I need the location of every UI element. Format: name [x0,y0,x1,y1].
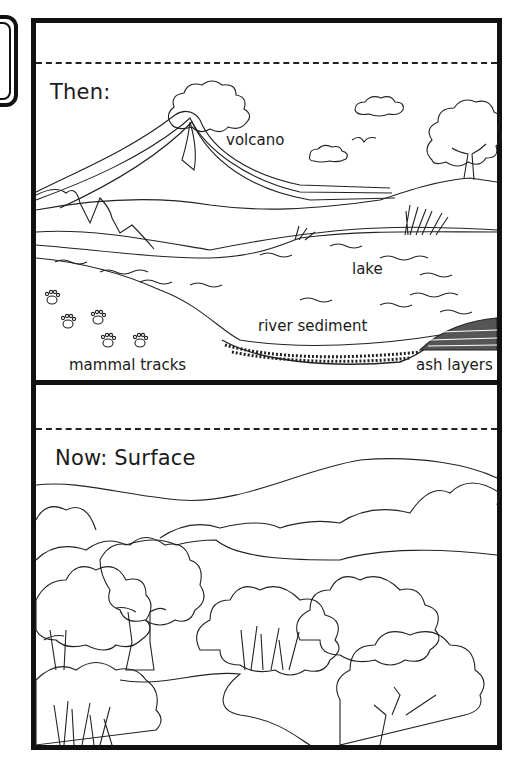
now-heading: Now: Surface [55,446,196,470]
then-heading: Then: [50,80,110,104]
river-sediment-label: river sediment [258,317,367,335]
tree-icon [337,632,484,745]
tree-icon [100,538,204,626]
now-illustration [0,0,529,774]
volcano-label: volcano [226,131,284,149]
tree-icon [197,587,339,675]
mammal-tracks-label: mammal tracks [69,356,186,374]
lake-label: lake [352,260,383,278]
tree-icon [36,567,151,650]
tree-icon [297,577,439,665]
tree-icon [36,663,161,746]
ash-layers-label: ash layers [416,356,493,374]
